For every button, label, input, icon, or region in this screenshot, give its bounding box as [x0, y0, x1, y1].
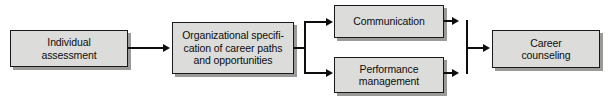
node-organizational-specification[interactable]: Organizational specifi- cation of career… — [172, 22, 294, 74]
flowchart-diagram: Individual assessment Organizational spe… — [0, 0, 614, 102]
connector-assessment-to-specification — [128, 47, 163, 49]
node-communication[interactable]: Communication — [334, 5, 444, 38]
connector-branch-bar — [304, 21, 306, 74]
connector-branch-to-communication — [304, 21, 326, 23]
connector-merge-to-counseling — [466, 47, 483, 49]
arrowhead-to-communication — [326, 18, 333, 26]
arrowhead-to-counseling — [483, 44, 490, 52]
connector-branch-to-performance — [304, 72, 326, 74]
arrowhead-communication-merge — [452, 17, 459, 25]
arrowhead-to-specification — [163, 44, 170, 52]
arrowhead-performance-merge — [452, 69, 459, 77]
arrowhead-to-performance — [326, 69, 333, 77]
node-performance-management[interactable]: Performance management — [334, 57, 444, 93]
node-career-counseling[interactable]: Career counseling — [492, 30, 600, 68]
node-individual-assessment[interactable]: Individual assessment — [10, 30, 128, 67]
